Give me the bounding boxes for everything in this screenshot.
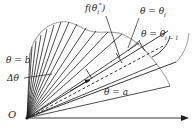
label-theta-equals-theta-i-minus-1: θ = θi − 1 [141, 30, 179, 41]
origin-point [25, 116, 28, 119]
label-delta-theta: Δθ [7, 74, 19, 83]
axis-arrowhead [181, 115, 189, 121]
label-theta-equals-a: θ = a [104, 88, 128, 97]
polar-area-diagram: f(θi*) θ = θi θ = θi − 1 θ = b Δθ θ = a … [0, 0, 192, 135]
diagram-canvas [0, 0, 192, 135]
label-f-theta-i-star: f(θi*) [85, 3, 105, 15]
label-theta-equals-theta-i: θ = θi [140, 7, 166, 18]
sector-width-ticks [86, 41, 145, 79]
leader-line-f-theta [106, 16, 120, 58]
label-theta-equals-b: θ = b [6, 56, 30, 65]
label-origin: O [8, 110, 16, 120]
delta-theta-arrow [70, 80, 90, 91]
leader-line-delta-theta [24, 74, 52, 78]
